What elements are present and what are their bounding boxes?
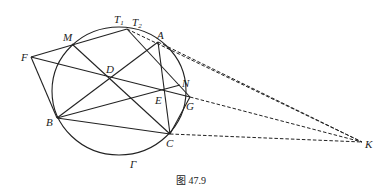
figure-caption: 图 47.9 (176, 175, 206, 186)
label-T1: T1 (114, 13, 124, 27)
segment-B-A (57, 42, 158, 118)
label-T2: T2 (132, 16, 142, 30)
label-G: G (186, 100, 194, 112)
geometry-diagram: T1 T2 A M F D N E G B C K Γ 图 47.9 (0, 0, 390, 191)
segment-F-B (31, 57, 57, 118)
label-N: N (181, 77, 190, 89)
label-M: M (62, 31, 73, 43)
label-A: A (156, 29, 164, 41)
segment-B-C (57, 118, 170, 134)
segment-F-T (31, 29, 127, 57)
label-F: F (20, 51, 28, 63)
segment-M-C (72, 44, 170, 134)
label-gamma: Γ (129, 158, 137, 170)
dashed-G-K (190, 97, 362, 142)
label-K: K (364, 138, 373, 150)
dashed-C-K (170, 134, 362, 142)
label-C: C (166, 137, 174, 149)
label-B: B (46, 116, 53, 128)
label-E: E (154, 94, 162, 106)
dashed-A-K (158, 42, 362, 142)
label-D: D (105, 63, 114, 75)
